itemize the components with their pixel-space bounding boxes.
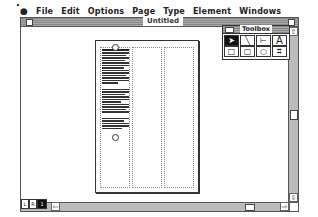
tool-grid: ➤ ╲ ⊢ A □ ▢ ○ ⌗	[224, 35, 288, 57]
menu-page[interactable]: Page	[132, 7, 155, 16]
scroll-right-arrow-icon[interactable]: ⇨	[280, 202, 289, 211]
vertical-scroll-thumb[interactable]	[290, 110, 298, 120]
scroll-left-arrow-icon[interactable]: ⇦	[51, 202, 60, 211]
pointer-tool-icon[interactable]: ➤	[224, 35, 239, 46]
document-window: Untitled ⇧ ⇩ ⇦	[20, 17, 299, 212]
scroll-up-arrow-icon[interactable]: ⇧	[289, 27, 298, 36]
page-1-icon[interactable]: 1	[37, 199, 47, 209]
menu-windows[interactable]: Windows	[239, 7, 281, 16]
text-tool-icon[interactable]: A	[272, 35, 287, 46]
toolbox-palette: Toolbox ➤ ╲ ⊢ A □ ▢ ○ ⌗	[222, 25, 290, 60]
menu-edit[interactable]: Edit	[61, 7, 80, 16]
bottom-handle-icon[interactable]	[112, 134, 119, 141]
diagonal-line-tool-icon[interactable]: ╲	[240, 35, 255, 46]
horizontal-scroll-thumb[interactable]	[245, 204, 255, 211]
rounded-rectangle-tool-icon[interactable]: ▢	[240, 46, 255, 57]
size-box-icon[interactable]	[289, 202, 298, 211]
toolbox-close-icon[interactable]	[225, 27, 234, 33]
toolbox-title: Toolbox	[240, 25, 272, 33]
crop-tool-icon[interactable]: ⌗	[272, 46, 287, 57]
menu-element[interactable]: Element	[193, 7, 231, 16]
page-icons: L R 1	[21, 199, 47, 209]
apple-menu-icon[interactable]: ●	[20, 6, 28, 16]
menu-type[interactable]: Type	[163, 7, 185, 16]
rectangle-tool-icon[interactable]: □	[224, 46, 239, 57]
toolbox-title-bar[interactable]: Toolbox	[223, 26, 289, 34]
scroll-down-arrow-icon[interactable]: ⇩	[289, 193, 298, 202]
right-master-page-icon[interactable]: R	[29, 199, 37, 209]
menu-file[interactable]: File	[36, 7, 53, 16]
close-box-icon[interactable]	[26, 19, 33, 26]
screen-corner	[17, 4, 19, 6]
page-canvas[interactable]	[95, 40, 199, 193]
left-master-page-icon[interactable]: L	[21, 199, 29, 209]
text-column-2[interactable]	[132, 47, 162, 188]
text-column-3[interactable]	[164, 47, 194, 188]
oval-tool-icon[interactable]: ○	[256, 46, 271, 57]
menu-bar: ● File Edit Options Page Type Element Wi…	[20, 5, 310, 17]
menu-options[interactable]: Options	[88, 7, 124, 16]
top-handle-icon[interactable]	[112, 44, 119, 51]
text-column-1[interactable]	[100, 47, 130, 188]
horizontal-scrollbar[interactable]: ⇦ ⇨	[21, 202, 289, 211]
window-title: Untitled	[143, 17, 183, 26]
text-block	[102, 49, 129, 133]
orthogonal-line-tool-icon[interactable]: ⊢	[256, 35, 271, 46]
